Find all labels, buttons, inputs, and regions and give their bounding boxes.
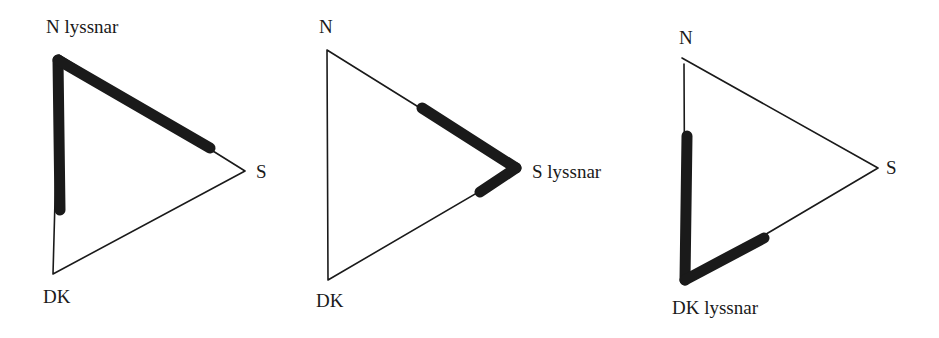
vertex-label-s: S lyssnar xyxy=(532,161,602,182)
vertex-label-dk: DK xyxy=(43,286,71,307)
listening-path-dk-to-n xyxy=(685,136,687,280)
triangle-outline xyxy=(327,50,518,280)
listening-path-n-to-dk xyxy=(58,60,60,210)
triangle-outline xyxy=(53,55,245,274)
vertex-label-dk: DK lyssnar xyxy=(672,297,759,318)
diagram-north-listens: N lyssnar S DK xyxy=(43,16,267,307)
vertex-label-dk: DK xyxy=(316,290,344,311)
vertex-label-n: N lyssnar xyxy=(46,16,119,37)
vertex-label-s: S xyxy=(886,157,897,178)
vertex-label-s: S xyxy=(256,161,267,182)
vertex-label-n: N xyxy=(679,27,693,48)
listening-path-n-to-s xyxy=(58,60,210,148)
listening-path-s-to-dk xyxy=(480,168,516,192)
listening-triangles-figure: N lyssnar S DK N S lyssnar DK N S DK lys… xyxy=(0,0,939,338)
listening-path-s-to-n xyxy=(422,108,516,168)
diagram-dk-listens: N S DK lyssnar xyxy=(672,27,897,318)
triangle-outline xyxy=(682,58,878,282)
diagram-south-listens: N S lyssnar DK xyxy=(316,16,602,311)
vertex-label-n: N xyxy=(319,16,333,37)
listening-path-dk-to-s xyxy=(685,238,764,280)
